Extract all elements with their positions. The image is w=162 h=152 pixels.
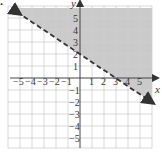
svg-text:−2: −2 bbox=[49, 76, 60, 87]
svg-text:2: 2 bbox=[101, 76, 106, 87]
svg-text:5: 5 bbox=[73, 13, 78, 24]
svg-text:−4: −4 bbox=[25, 76, 36, 87]
svg-text:1: 1 bbox=[73, 61, 78, 72]
svg-text:−1: −1 bbox=[69, 85, 80, 96]
svg-text:−4: −4 bbox=[69, 121, 80, 132]
problem-marker: . bbox=[0, 0, 3, 7]
svg-text:3: 3 bbox=[73, 37, 78, 48]
svg-text:−5: −5 bbox=[13, 76, 24, 87]
svg-text:−2: −2 bbox=[69, 97, 80, 108]
y-axis-label: y bbox=[70, 0, 76, 9]
inequality-graph: x y −5 −4 −3 −2 −1 1 2 3 4 5 5 4 3 2 1 −… bbox=[0, 0, 162, 152]
svg-text:1: 1 bbox=[89, 76, 94, 87]
svg-text:−3: −3 bbox=[69, 109, 80, 120]
svg-text:5: 5 bbox=[137, 76, 142, 87]
svg-text:−5: −5 bbox=[69, 133, 80, 144]
svg-text:4: 4 bbox=[73, 25, 78, 36]
x-axis-label: x bbox=[154, 83, 160, 95]
svg-text:−3: −3 bbox=[37, 76, 48, 87]
